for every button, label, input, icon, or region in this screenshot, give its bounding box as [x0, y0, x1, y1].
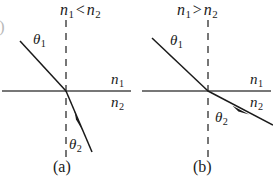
refracted-angle-label-a: θ2 — [69, 137, 82, 154]
medium-upper-b-symbol: n — [250, 71, 258, 87]
condition-a-n2-symbol: n — [87, 1, 95, 18]
medium-upper-label-a: n1 — [111, 72, 124, 89]
condition-label-b: n1>n2 — [177, 2, 218, 20]
theta1-b-subscript: 1 — [177, 39, 183, 50]
medium-lower-label-b: n2 — [250, 95, 263, 112]
medium-lower-b-subscript: 2 — [258, 101, 264, 112]
figure-canvas — [0, 0, 273, 182]
caption-a: (a) — [53, 159, 71, 175]
medium-upper-label-b: n1 — [250, 72, 263, 89]
condition-b-n2-subscript: 2 — [212, 8, 218, 20]
condition-b-n2-symbol: n — [204, 1, 212, 18]
refracted-angle-label-b: θ2 — [215, 110, 228, 127]
panel-b-graphics — [142, 20, 273, 160]
refraction-figure: ) n1<n2 θ1 θ2 n1 n2 (a) n1>n2 θ1 θ2 n1 n… — [0, 0, 273, 182]
medium-lower-a-symbol: n — [111, 94, 119, 110]
condition-b-n1-symbol: n — [177, 1, 185, 18]
medium-upper-a-symbol: n — [111, 71, 119, 87]
theta2-b-subscript: 2 — [222, 116, 228, 127]
incident-angle-label-b: θ1 — [170, 33, 183, 50]
incident-ray-arrow-a — [38, 61, 50, 74]
medium-upper-b-subscript: 1 — [258, 78, 264, 89]
condition-a-n1-subscript: 1 — [68, 8, 74, 20]
theta1-a-subscript: 1 — [40, 38, 46, 49]
medium-lower-label-a: n2 — [111, 95, 124, 112]
condition-a-relation: < — [74, 1, 87, 18]
condition-a-n2-subscript: 2 — [95, 8, 101, 20]
theta2-a-subscript: 2 — [76, 143, 82, 154]
medium-lower-b-symbol: n — [250, 94, 258, 110]
medium-upper-a-subscript: 1 — [119, 78, 125, 89]
caption-b: (b) — [193, 159, 212, 175]
panel-a-graphics — [2, 20, 131, 160]
condition-label-a: n1<n2 — [60, 2, 101, 20]
incident-angle-label-a: θ1 — [33, 32, 46, 49]
condition-b-relation: > — [191, 1, 204, 18]
medium-lower-a-subscript: 2 — [119, 101, 125, 112]
condition-a-n1-symbol: n — [60, 1, 68, 18]
condition-b-n1-subscript: 1 — [185, 8, 191, 20]
page-edge-artifact-glyph: ) — [0, 18, 5, 35]
refracted-ray-arrow-b — [233, 106, 250, 115]
